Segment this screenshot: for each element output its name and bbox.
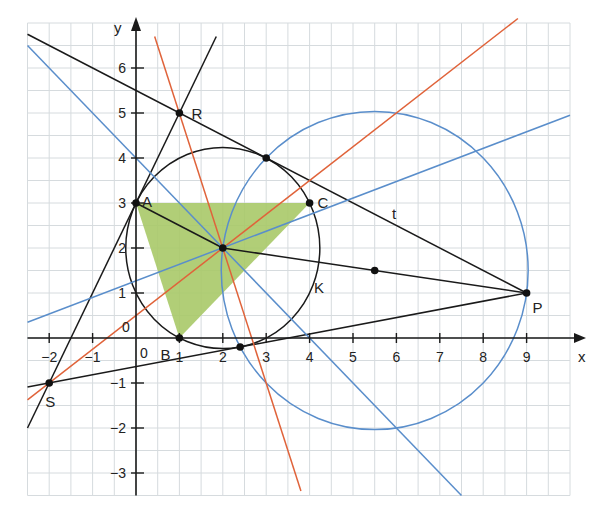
point-t2 xyxy=(236,343,244,351)
point-m xyxy=(219,244,227,252)
point-r xyxy=(176,109,184,117)
x-tick-label: 3 xyxy=(262,349,270,365)
x-tick-label: −2 xyxy=(41,349,57,365)
point-c xyxy=(306,199,314,207)
x-tick-label: −1 xyxy=(85,349,101,365)
x-tick-label: 4 xyxy=(306,349,314,365)
tangent-SP xyxy=(28,293,527,387)
y-tick-label: 4 xyxy=(118,150,126,166)
origin-label: 0 xyxy=(140,345,148,361)
x-tick-label: 9 xyxy=(523,349,531,365)
x-axis-arrow-icon xyxy=(574,333,586,343)
y-tick-label: 6 xyxy=(118,60,126,76)
x-tick-label: 8 xyxy=(479,349,487,365)
point-b xyxy=(176,334,184,342)
y-axis-label: y xyxy=(114,19,122,36)
y-tick-label: 2 xyxy=(118,240,126,256)
tangent-t xyxy=(28,34,527,293)
origin-label: 0 xyxy=(122,319,130,335)
x-tick-label: 5 xyxy=(349,349,357,365)
x-tick-label: 6 xyxy=(393,349,401,365)
y-tick-label: −1 xyxy=(110,375,126,391)
point-label-b: B xyxy=(160,346,170,363)
point-h xyxy=(371,267,379,275)
y-tick-label: −3 xyxy=(110,465,126,481)
point-label-c: C xyxy=(318,194,329,211)
y-tick-label: 3 xyxy=(118,195,126,211)
point-label-a: A xyxy=(142,193,152,210)
x-axis-label: x xyxy=(578,348,586,365)
point-label-p: P xyxy=(533,299,543,316)
x-tick-label: 1 xyxy=(176,349,184,365)
axes: −2−1123456789−3−2−1123456xy00 xyxy=(28,17,587,496)
point-label-r: R xyxy=(191,105,202,122)
y-tick-label: 1 xyxy=(118,285,126,301)
x-tick-label: 2 xyxy=(219,349,227,365)
blue-line-2 xyxy=(28,115,571,322)
point-s xyxy=(45,379,53,387)
point-t1 xyxy=(262,154,270,162)
point-p xyxy=(523,289,531,297)
y-axis-arrow-icon xyxy=(131,17,141,31)
geometry-figure: −2−1123456789−3−2−1123456xy00 ABCRSPtK xyxy=(0,0,591,515)
y-tick-label: −2 xyxy=(110,420,126,436)
circle-label-k: K xyxy=(314,279,324,296)
bisector-S xyxy=(28,19,518,400)
y-tick-label: 5 xyxy=(118,105,126,121)
x-tick-label: 7 xyxy=(436,349,444,365)
point-a xyxy=(132,199,140,207)
point-label-s: S xyxy=(45,393,55,410)
